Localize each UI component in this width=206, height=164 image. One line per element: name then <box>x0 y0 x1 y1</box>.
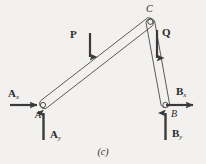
reaction-label-By-subscript: y <box>179 133 182 141</box>
member-AC <box>40 18 154 109</box>
reaction-label-Ay-subscript: y <box>58 134 61 142</box>
figure-caption: (c) <box>0 146 206 157</box>
load-label-Q: Q <box>162 27 171 38</box>
free-body-diagram-figure: P Q Ax Ay Bx By A C B (c) <box>0 0 206 164</box>
member-CB-edge-left <box>146 23 161 106</box>
pin-joint-A <box>40 102 45 107</box>
reaction-label-Ax-letter: A <box>8 87 16 99</box>
reaction-label-Ay: Ay <box>50 129 61 142</box>
load-label-P: P <box>70 29 77 40</box>
joint-label-A: A <box>35 110 41 120</box>
reaction-label-By: By <box>172 128 182 141</box>
reaction-label-Ax: Ax <box>8 88 19 101</box>
pin-joint-C <box>148 19 153 24</box>
reaction-label-Bx: Bx <box>176 86 186 99</box>
reaction-label-Bx-subscript: x <box>183 91 186 99</box>
joint-label-C: C <box>146 4 153 14</box>
member-AC-edge-upper <box>41 18 148 101</box>
reaction-label-Ay-letter: A <box>50 128 58 140</box>
reaction-label-Ax-subscript: x <box>16 93 19 101</box>
joint-label-B: B <box>171 109 177 119</box>
member-AC-edge-lower <box>46 26 153 109</box>
